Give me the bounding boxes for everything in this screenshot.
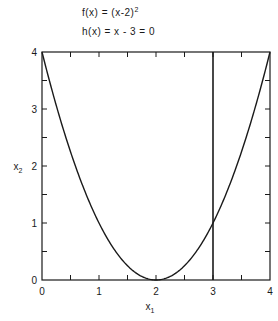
objective-curve bbox=[42, 52, 270, 280]
x-tick-label: 3 bbox=[210, 286, 216, 297]
x-tick-label: 1 bbox=[96, 286, 102, 297]
x-tick-label: 4 bbox=[267, 286, 273, 297]
y-tick-label: 4 bbox=[31, 47, 37, 58]
plot-border bbox=[42, 52, 270, 280]
y-tick-label: 0 bbox=[31, 275, 37, 286]
y-tick-label: 2 bbox=[31, 161, 37, 172]
x-tick-label: 0 bbox=[39, 286, 45, 297]
x-tick-label: 2 bbox=[153, 286, 159, 297]
y-axis-label-sub: 2 bbox=[19, 167, 23, 174]
x-axis-label: x1 bbox=[146, 301, 155, 314]
y-tick-label: 1 bbox=[31, 218, 37, 229]
chart: 0123401234 x1 x2 bbox=[0, 0, 278, 321]
ticks bbox=[42, 52, 270, 280]
plot-frame bbox=[42, 52, 270, 280]
series bbox=[42, 52, 270, 280]
x-axis-label-sub: 1 bbox=[151, 307, 155, 314]
tick-labels: 0123401234 bbox=[31, 47, 273, 297]
y-tick-label: 3 bbox=[31, 104, 37, 115]
y-axis-label: x2 bbox=[14, 161, 23, 174]
